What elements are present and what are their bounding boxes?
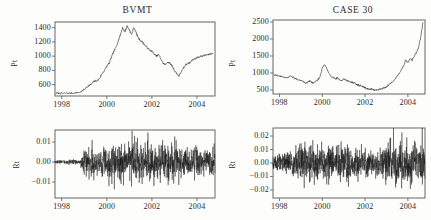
panel-title-bvmt: BVMT [55,5,220,15]
x-tick-label: 1998 [46,100,78,109]
y-tick-label: 0.00 [15,157,51,166]
x-tick-label: 2004 [392,202,424,211]
y-tick-label: 1200 [15,37,51,46]
y-tick-label: −0.02 [233,185,269,194]
panel-title-case30: CASE 30 [278,5,428,15]
y-tick-label: 2000 [233,34,269,43]
y-tick-label: 0.02 [233,131,269,140]
x-tick-label: 2002 [136,100,168,109]
y-tick-label: 2500 [233,17,269,26]
y-tick-label: 1500 [233,51,269,60]
y-tick-label: 500 [233,85,269,94]
x-tick-label: 2002 [349,98,381,107]
x-tick-label: 2000 [306,98,338,107]
y-tick-label: 600 [15,80,51,89]
x-tick-label: 1998 [46,202,78,211]
y-tick-label: 800 [15,65,51,74]
y-tick-label: −0.01 [233,171,269,180]
y-tick-label: 1000 [233,68,269,77]
x-tick-label: 2002 [136,202,168,211]
x-tick-label: 2004 [181,100,213,109]
x-tick-label: 2002 [349,202,381,211]
y-tick-label: 0.00 [233,158,269,167]
x-tick-label: 1998 [263,98,295,107]
y-tick-label: 0.01 [15,137,51,146]
x-tick-label: 2004 [392,98,424,107]
y-tick-label: 1000 [15,51,51,60]
x-tick-label: 1998 [263,202,295,211]
x-tick-label: 2004 [181,202,213,211]
y-tick-label: −0.01 [15,177,51,186]
y-tick-label: 0.01 [233,145,269,154]
x-tick-label: 2000 [91,100,123,109]
y-tick-label: 1400 [15,23,51,32]
x-tick-label: 2000 [306,202,338,211]
figure-panel-grid: BVMT Pt CASE 30 Pt Rt Rt 600800100012001… [0,0,431,220]
x-tick-label: 2000 [91,202,123,211]
